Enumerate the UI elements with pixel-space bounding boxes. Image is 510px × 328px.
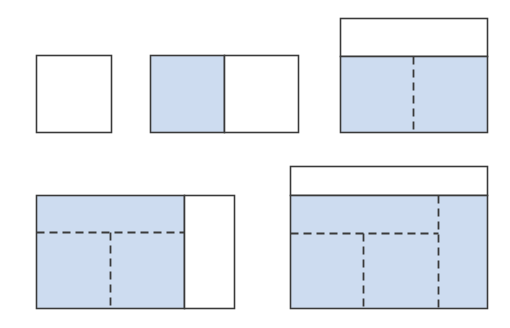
shaded-region — [341, 57, 488, 133]
shaded-region — [291, 196, 488, 309]
fig-1 — [37, 56, 112, 133]
empty-region — [341, 19, 488, 57]
fig-5 — [291, 167, 488, 309]
fig-2 — [151, 56, 299, 133]
empty-region — [185, 196, 235, 309]
figures-group — [37, 19, 488, 309]
fig-4 — [37, 196, 235, 309]
shaded-region — [151, 56, 225, 133]
empty-region — [37, 56, 112, 133]
empty-region — [225, 56, 299, 133]
fig-3 — [341, 19, 488, 133]
empty-region — [291, 167, 488, 196]
diagram-canvas — [0, 0, 510, 328]
